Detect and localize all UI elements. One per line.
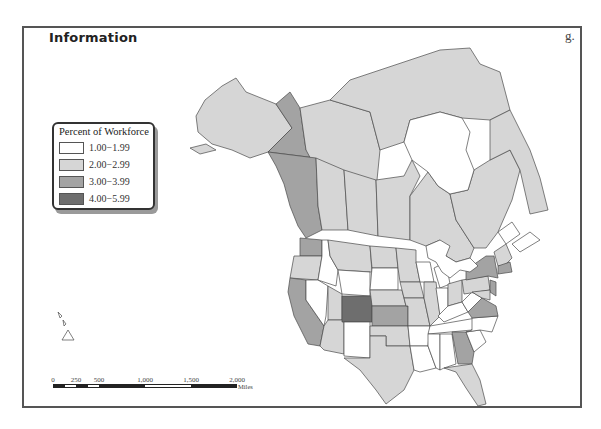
- region-washington: [300, 238, 322, 256]
- legend-swatch: [59, 142, 84, 154]
- panel-letter: g.: [565, 28, 575, 44]
- legend-title: Percent of Workforce: [59, 126, 148, 137]
- regions-layer: [58, 48, 548, 406]
- legend: Percent of Workforce 1.00−1.99 2.00−2.99…: [52, 122, 155, 210]
- legend-swatch: [59, 176, 84, 188]
- region-hawaii: [58, 312, 74, 340]
- scale-tick-label: 250: [71, 376, 82, 384]
- legend-item: 2.00−2.99: [59, 156, 148, 173]
- region-ohio: [448, 280, 462, 306]
- scale-tick-label: 1,000: [137, 376, 153, 384]
- choropleth-map: [0, 0, 601, 429]
- region-utah: [328, 286, 342, 320]
- region-oregon: [290, 256, 322, 280]
- legend-label: 2.00−2.99: [89, 159, 130, 170]
- region-colorado: [342, 296, 372, 322]
- legend-label: 1.00−1.99: [89, 142, 130, 153]
- region-saskatchewan: [344, 170, 378, 236]
- map-title: Information: [49, 30, 137, 45]
- region-nebraska: [370, 290, 406, 306]
- region-arkansas: [408, 326, 430, 346]
- scale-segment: [65, 385, 76, 387]
- legend-item: 4.00−5.99: [59, 190, 148, 207]
- region-north-dakota: [370, 246, 398, 268]
- scale-tick-label: 0: [51, 376, 55, 384]
- legend-label: 4.00−5.99: [89, 193, 130, 204]
- legend-swatch: [59, 159, 84, 171]
- region-florida: [444, 364, 486, 406]
- scale-segment: [88, 385, 99, 387]
- scale-segment: [145, 385, 191, 387]
- legend-swatch: [59, 193, 84, 205]
- scale-tick-label: 1,500: [183, 376, 199, 384]
- scale-tick-label: 500: [94, 376, 105, 384]
- legend-label: 3.00−3.99: [89, 176, 130, 187]
- scale-unit: Miles: [238, 383, 253, 390]
- region-new-jersey: [490, 280, 496, 296]
- region-south-dakota: [370, 268, 398, 290]
- legend-item: 3.00−3.99: [59, 173, 148, 190]
- region-wyoming: [338, 270, 370, 296]
- legend-item: 1.00−1.99: [59, 139, 148, 156]
- region-iowa: [400, 282, 424, 298]
- region-kansas: [372, 306, 408, 326]
- region-british-columbia: [268, 152, 322, 238]
- region-new-mexico: [344, 322, 370, 358]
